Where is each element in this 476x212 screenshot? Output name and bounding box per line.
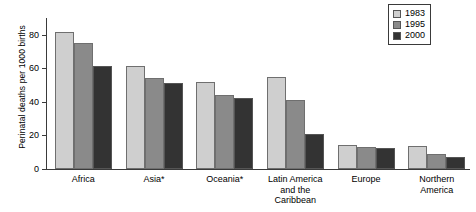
legend-label: 2000 [405,31,425,40]
bar [93,66,112,169]
bar [234,98,253,169]
bar [215,95,234,169]
legend-item: 1995 [393,19,425,30]
y-tick-label: 40 [29,97,39,106]
bar [267,77,286,169]
bar-group [126,18,183,169]
bar [427,154,446,169]
legend-label: 1995 [405,20,425,29]
legend-swatch-icon [393,10,401,18]
legend-swatch-icon [393,21,401,29]
y-tick-mark [42,68,46,69]
y-tick-mark [42,102,46,103]
y-tick-mark [42,35,46,36]
bar [286,100,305,169]
y-tick-label: 80 [29,30,39,39]
y-axis-title: Perinatal deaths per 1000 births [17,7,27,167]
bar [145,78,164,169]
bar [164,83,183,169]
y-tick-mark [42,135,46,136]
bar-group [196,18,253,169]
bar [126,66,145,169]
bar [305,134,324,169]
legend-item: 1983 [393,8,425,19]
y-tick-label: 20 [29,131,39,140]
bar-chart: Perinatal deaths per 1000 births 0204060… [0,0,476,212]
bar [446,157,465,169]
y-tick-label: 0 [34,165,39,174]
bar [338,145,357,169]
category-label: Northern America [392,174,476,195]
bar [357,147,376,169]
x-axis-line [46,169,470,170]
bar [196,82,215,169]
bar [376,148,395,169]
bar-group [55,18,112,169]
y-tick-mark [42,169,46,170]
legend-item: 2000 [393,30,425,41]
bar [55,32,74,169]
y-tick-label: 60 [29,64,39,73]
legend-label: 1983 [405,9,425,18]
y-axis-line [46,18,47,170]
legend-swatch-icon [393,32,401,40]
legend: 198319952000 [388,4,431,45]
bar-group [338,18,395,169]
bar [408,146,427,169]
bar-group [267,18,324,169]
bar [74,43,93,169]
